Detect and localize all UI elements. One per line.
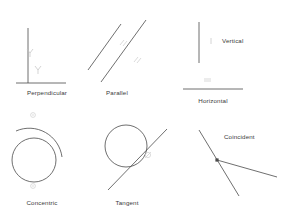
figure-horizontal	[183, 79, 243, 89]
perpendicular-constraint-glyph	[35, 66, 41, 74]
parallel-constraint-glyph	[120, 40, 127, 46]
parallel-line-second	[101, 20, 146, 82]
diagram-figures	[0, 0, 286, 212]
tangent-line	[108, 129, 167, 190]
label-coincident: Coincident	[224, 134, 255, 140]
concentric-constraint-glyph	[31, 113, 36, 118]
tangent-circle	[105, 125, 147, 167]
label-vertical: Vertical	[222, 38, 244, 44]
figure-perpendicular	[16, 28, 66, 83]
label-horizontal: Horizontal	[198, 98, 227, 104]
figure-concentric	[12, 113, 62, 189]
figure-tangent	[105, 125, 167, 190]
figure-parallel	[88, 20, 146, 82]
label-concentric: Concentric	[26, 200, 57, 206]
concentric-constraint-glyph	[31, 184, 36, 189]
figure-vertical	[199, 22, 211, 63]
parallel-constraint-glyph	[134, 57, 141, 63]
parallel-line-first	[88, 24, 121, 70]
horizontal-constraint-glyph	[204, 79, 211, 81]
coincident-point-marker	[215, 158, 218, 161]
concentric-inner-circle	[12, 138, 56, 182]
label-parallel: Parallel	[106, 90, 128, 96]
label-perpendicular: Perpendicular	[27, 90, 67, 96]
label-tangent: Tangent	[115, 200, 138, 206]
constraints-diagram: Perpendicular Parallel Vertical Horizont…	[0, 0, 286, 212]
